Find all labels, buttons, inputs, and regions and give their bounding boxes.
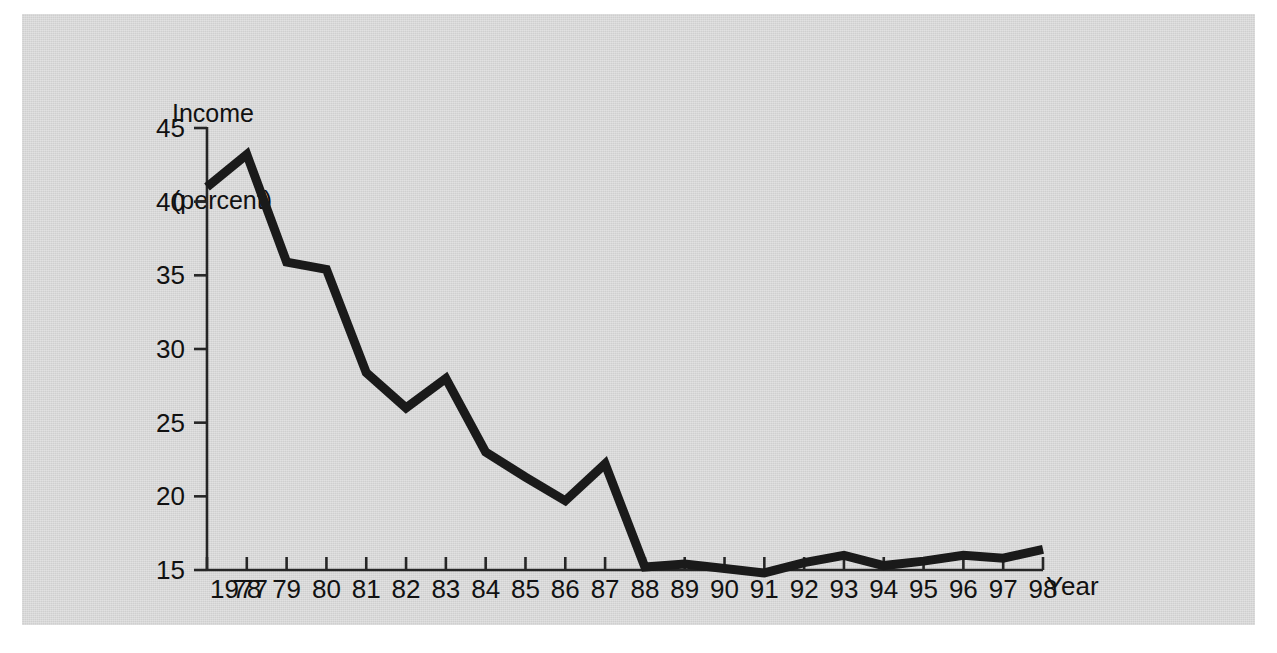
x-axis-tick-label: 92 xyxy=(790,574,819,604)
x-axis-tick-label: 97 xyxy=(989,574,1018,604)
y-axis-tick-group xyxy=(194,128,207,570)
y-axis-tick-label: 20 xyxy=(156,481,185,511)
y-axis-tick-label: 25 xyxy=(156,408,185,438)
x-axis-tick-label: 84 xyxy=(471,574,500,604)
x-axis-tick-label: 87 xyxy=(591,574,620,604)
x-axis-tick-label: 78 xyxy=(232,574,261,604)
x-axis-tick-label: 80 xyxy=(312,574,341,604)
x-axis-tick-label: 96 xyxy=(949,574,978,604)
y-axis-tick-labels: 15202530354045 xyxy=(156,113,185,585)
x-axis-tick-label: 89 xyxy=(670,574,699,604)
x-axis-tick-labels: 1977787980818283848586878889909192939495… xyxy=(210,574,1057,604)
x-axis-tick-label: 94 xyxy=(869,574,898,604)
y-axis-tick-label: 40 xyxy=(156,187,185,217)
x-axis-tick-label: 91 xyxy=(750,574,779,604)
x-axis-tick-label: 95 xyxy=(909,574,938,604)
y-axis-tick-label: 35 xyxy=(156,260,185,290)
x-axis-tick-label: 88 xyxy=(630,574,659,604)
x-axis-tick-label: 83 xyxy=(431,574,460,604)
x-axis-tick-label: 81 xyxy=(352,574,381,604)
y-axis-tick-label: 15 xyxy=(156,555,185,585)
y-axis-tick-label: 45 xyxy=(156,113,185,143)
x-axis-tick-label: 90 xyxy=(710,574,739,604)
x-axis-tick-label: 93 xyxy=(829,574,858,604)
x-axis-tick-label: 86 xyxy=(551,574,580,604)
line-chart-plot: 1977787980818283848586878889909192939495… xyxy=(0,0,1277,653)
x-axis-tick-label: 82 xyxy=(392,574,421,604)
x-axis-tick-label: 98 xyxy=(1029,574,1058,604)
x-axis-tick-label: 85 xyxy=(511,574,540,604)
figure-container: Income (percent) Year 197778798081828384… xyxy=(0,0,1277,653)
y-axis-tick-label: 30 xyxy=(156,334,185,364)
x-axis-tick-label: 79 xyxy=(272,574,301,604)
income-percent-line xyxy=(207,155,1043,573)
